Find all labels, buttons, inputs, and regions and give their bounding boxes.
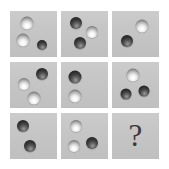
dark-sphere-icon: [68, 70, 81, 83]
light-sphere-icon: [70, 120, 82, 132]
dark-sphere-icon: [24, 140, 36, 152]
light-sphere-icon: [126, 68, 139, 81]
light-sphere-icon: [27, 91, 40, 104]
matrix-cell-3-2: [61, 113, 108, 159]
dark-sphere-icon: [37, 40, 47, 50]
dark-sphere-icon: [121, 35, 133, 47]
dark-sphere-icon: [70, 17, 82, 29]
dark-sphere-icon: [120, 89, 131, 100]
dark-sphere-icon: [36, 68, 48, 80]
dark-sphere-icon: [86, 137, 98, 149]
dark-sphere-icon: [17, 120, 29, 132]
light-sphere-icon: [136, 19, 149, 32]
light-sphere-icon: [16, 33, 29, 46]
missing-cell-question-mark: ?: [129, 120, 143, 151]
light-sphere-icon: [68, 140, 80, 152]
dark-sphere-icon: [74, 37, 86, 49]
matrix-cell-3-3[interactable]: ?: [112, 113, 159, 159]
matrix-cell-1-1: [10, 11, 57, 57]
matrix-cell-1-3: [112, 11, 159, 57]
matrix-cell-1-2: [61, 11, 108, 57]
matrix-puzzle-grid: ?: [10, 11, 159, 159]
matrix-cell-2-2: [61, 62, 108, 108]
dark-sphere-icon: [139, 86, 150, 97]
matrix-cell-2-3: [112, 62, 159, 108]
light-sphere-icon: [86, 26, 98, 38]
light-sphere-icon: [68, 89, 81, 102]
light-sphere-icon: [20, 16, 33, 29]
matrix-cell-3-1: [10, 113, 57, 159]
light-sphere-icon: [18, 78, 30, 90]
matrix-cell-2-1: [10, 62, 57, 108]
